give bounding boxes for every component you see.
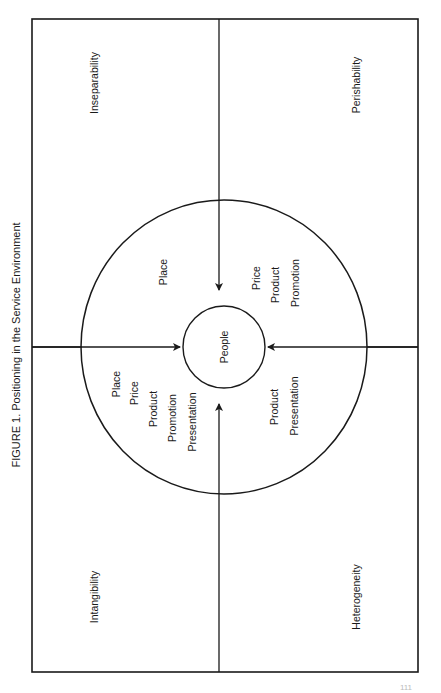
- ring-label: Price: [128, 381, 140, 405]
- ring-label: Presentation: [288, 376, 300, 435]
- ring-label: Promotion: [289, 259, 301, 307]
- ring-label: Price: [250, 266, 262, 290]
- ring-label: Place: [110, 371, 122, 397]
- diagram-canvas: FIGURE 1. Positioning in the Service Env…: [0, 0, 441, 693]
- ring-label: Product: [147, 391, 159, 427]
- ring-label: Product: [269, 267, 281, 303]
- ring-label: Place: [157, 259, 169, 285]
- ring-label: Product: [268, 389, 280, 425]
- quadrant-label-inseparability: Inseparability: [88, 51, 100, 114]
- quadrant-label-heterogeneity: Heterogeneity: [350, 564, 362, 630]
- quadrant-label-intangibility: Intangibility: [88, 570, 100, 623]
- ring-label: Presentation: [186, 392, 198, 451]
- quadrant-label-perishability: Perishability: [350, 56, 362, 113]
- page-number: 111: [400, 683, 413, 692]
- ring-label: Promotion: [166, 394, 178, 442]
- center-label-people: People: [218, 330, 230, 363]
- figure-caption: FIGURE 1. Positioning in the Service Env…: [10, 222, 22, 467]
